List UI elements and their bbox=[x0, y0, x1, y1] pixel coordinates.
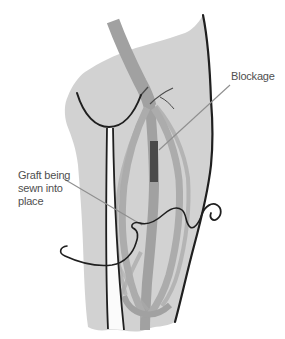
blockage-label: Blockage bbox=[231, 70, 275, 83]
leg-silhouette bbox=[65, 15, 213, 332]
graft-label: Graft being sewn into place bbox=[18, 169, 76, 208]
medical-illustration: Blockage Graft being sewn into place bbox=[0, 0, 285, 339]
